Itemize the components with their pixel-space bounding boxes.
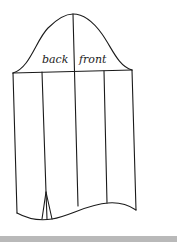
left-seam — [13, 73, 17, 213]
footer-bar — [0, 236, 177, 242]
front-division-line — [104, 71, 107, 203]
back-label: back — [42, 53, 69, 66]
front-label: front — [78, 53, 107, 66]
hem-curve — [17, 203, 136, 220]
sleeve-cap-curve — [13, 14, 132, 73]
sleeve-pattern-diagram: back front — [0, 0, 177, 236]
back-division-line — [42, 72, 46, 192]
center-grain-line — [73, 14, 78, 206]
bicep-line — [13, 70, 132, 73]
right-seam — [132, 70, 136, 210]
